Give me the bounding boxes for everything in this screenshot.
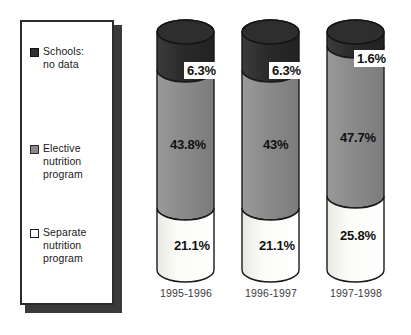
bar-top-cap (242, 20, 299, 44)
bar-1997-1998: 1.6% 47.7% 25.8% (327, 20, 384, 282)
data-label-separate-nutrition-program: 21.1% (259, 238, 295, 253)
data-label-schools-no-data: 1.6% (354, 50, 388, 67)
chart-legend: Schools: no data Elective nutrition prog… (20, 20, 114, 305)
bar-1995-1996: 6.3% 43.8% 21.1% (157, 20, 214, 282)
data-label-schools-no-data: 6.3% (184, 62, 218, 79)
legend-swatch-dark-icon (30, 48, 39, 57)
category-label-1995-1996: 1995-1996 (141, 287, 231, 299)
data-label-elective-nutrition-program: 43% (263, 137, 288, 152)
bar-1996-1997: 6.3% 43% 21.1% (242, 20, 299, 282)
bar-top-cap (157, 20, 214, 44)
legend-item-elective-nutrition-program: Elective nutrition program (30, 142, 118, 181)
data-label-elective-nutrition-program: 43.8% (170, 137, 206, 152)
legend-item-label: Elective nutrition program (43, 142, 83, 181)
bar-top-cap (327, 20, 384, 44)
data-label-separate-nutrition-program: 21.1% (174, 238, 210, 253)
chart-canvas: Schools: no data Elective nutrition prog… (0, 0, 411, 335)
data-label-schools-no-data: 6.3% (269, 62, 303, 79)
legend-swatch-white-icon (30, 229, 39, 238)
data-label-separate-nutrition-program: 25.8% (340, 228, 376, 243)
category-label-1997-1998: 1997-1998 (311, 287, 401, 299)
legend-item-label: Separate nutrition program (43, 226, 86, 265)
bar-segment-elective-nutrition-program (327, 46, 384, 208)
category-label-1996-1997: 1996-1997 (226, 287, 316, 299)
legend-item-label: Schools: no data (43, 45, 84, 71)
data-label-elective-nutrition-program: 47.7% (340, 130, 376, 145)
legend-swatch-gray-icon (30, 145, 39, 154)
legend-item-separate-nutrition-program: Separate nutrition program (30, 226, 118, 265)
legend-item-schools-no-data: Schools: no data (30, 45, 118, 71)
